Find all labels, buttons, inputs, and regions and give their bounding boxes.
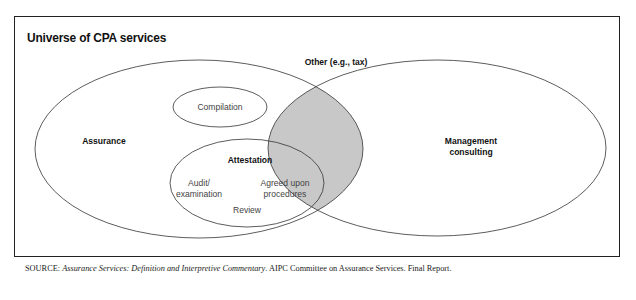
label-other: Other (e.g., tax) bbox=[300, 56, 372, 67]
label-attestation: Attestation bbox=[223, 154, 277, 165]
source-title: Assurance Services: Definition and Inter… bbox=[62, 264, 265, 273]
audit-line1: Audit/ bbox=[171, 177, 227, 188]
label-management-consulting: Management consulting bbox=[440, 135, 503, 157]
label-audit-examination: Audit/ examination bbox=[171, 177, 227, 199]
label-agreed-upon-procedures: Agreed upon procedures bbox=[255, 177, 314, 199]
label-assurance: Assurance bbox=[77, 135, 131, 146]
label-management-consulting-text: Management consulting bbox=[444, 135, 498, 157]
source-prefix: SOURCE: bbox=[25, 264, 60, 273]
venn-diagram bbox=[0, 0, 636, 300]
source-rest: . AIPC Committee on Assurance Services. … bbox=[265, 264, 451, 273]
label-compilation: Compilation bbox=[193, 101, 247, 112]
label-review: Review bbox=[225, 204, 270, 215]
agreed-line1: Agreed upon bbox=[255, 177, 314, 188]
agreed-line2: procedures bbox=[255, 188, 314, 199]
source-citation: SOURCE: Assurance Services: Definition a… bbox=[25, 264, 451, 273]
audit-line2: examination bbox=[171, 188, 227, 199]
